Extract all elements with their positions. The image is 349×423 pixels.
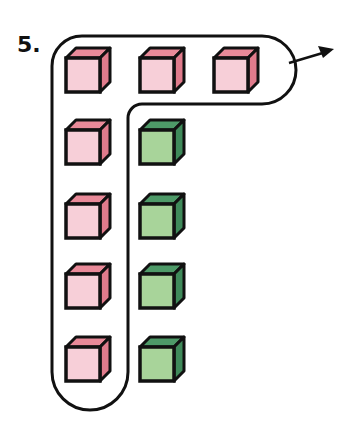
green-cube [140,194,184,238]
pink-cube [214,48,258,92]
pink-cube [66,337,110,381]
green-cube [140,264,184,308]
pink-cube [66,120,110,164]
green-cube [140,120,184,164]
pink-cube [66,194,110,238]
pink-cube [66,264,110,308]
cube-diagram [0,0,349,423]
pink-cube [140,48,184,92]
pink-cube [66,48,110,92]
green-cube [140,337,184,381]
arrow-icon [289,46,334,63]
